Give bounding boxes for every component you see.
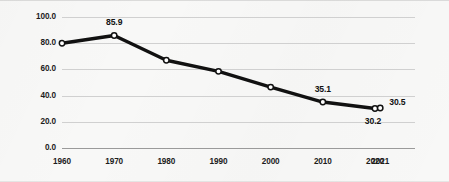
page-edge-top bbox=[0, 0, 449, 1]
x-tick-label: 1970 bbox=[105, 157, 123, 166]
data-point-value-label: 35.1 bbox=[315, 84, 331, 94]
data-point-marker bbox=[320, 99, 325, 104]
data-point-marker bbox=[268, 84, 273, 89]
x-tick-label: 2000 bbox=[262, 157, 280, 166]
line-chart: 100.080.060.040.020.00.0 196019701980199… bbox=[0, 0, 449, 182]
x-tick-label: 2021 bbox=[371, 157, 389, 166]
data-point-value-label: 30.5 bbox=[389, 97, 405, 107]
data-point-marker bbox=[111, 33, 116, 38]
data-point-marker bbox=[164, 58, 169, 63]
gridline-0-0 bbox=[62, 148, 415, 149]
data-point-marker bbox=[216, 69, 221, 74]
y-tick-label: 20.0 bbox=[10, 117, 56, 126]
data-point-value-label: 30.2 bbox=[365, 116, 381, 126]
plot-area bbox=[62, 17, 415, 148]
x-tick-label: 2010 bbox=[314, 157, 332, 166]
y-tick-label: 100.0 bbox=[10, 12, 56, 21]
x-tick-label: 1960 bbox=[53, 157, 71, 166]
x-tick-label: 1980 bbox=[157, 157, 175, 166]
series-line bbox=[62, 17, 415, 148]
y-tick-label: 0.0 bbox=[10, 143, 56, 152]
data-point-marker bbox=[59, 41, 64, 46]
y-tick-label: 40.0 bbox=[10, 91, 56, 100]
y-tick-label: 80.0 bbox=[10, 38, 56, 47]
series-markers bbox=[59, 33, 383, 111]
data-point-value-label: 85.9 bbox=[106, 17, 122, 27]
x-tick-label: 1990 bbox=[210, 157, 228, 166]
data-point-marker bbox=[378, 105, 383, 110]
page-edge-bottom bbox=[0, 181, 449, 182]
y-tick-label: 60.0 bbox=[10, 64, 56, 73]
